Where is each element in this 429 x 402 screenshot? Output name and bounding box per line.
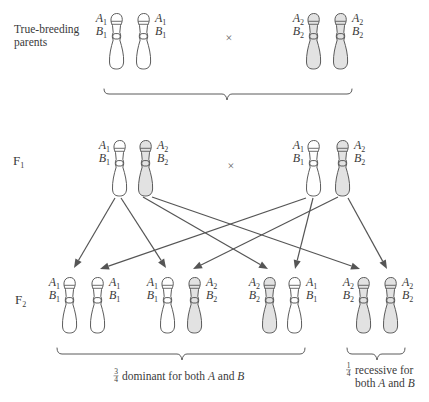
- f1-base: F: [13, 153, 20, 168]
- chromosome-f1-1: A2B2: [138, 138, 168, 196]
- allele-subscript: 2: [256, 295, 260, 304]
- allele-subscript: 2: [300, 18, 304, 27]
- chromosome-icon: [160, 277, 174, 333]
- arrow-head-icon: [74, 258, 82, 268]
- allele-subscript: 1: [154, 295, 158, 304]
- allele-subscript: 2: [359, 18, 363, 27]
- brace-dominant: [57, 348, 305, 360]
- chromosome-icon: [109, 13, 123, 69]
- arrow-head-icon: [294, 259, 301, 269]
- locus-b-ring: [94, 298, 101, 303]
- recessive-text-and: and: [385, 377, 407, 389]
- dominant-text: dominant for both A and B: [122, 370, 244, 382]
- arrow-head-icon: [380, 259, 387, 269]
- arrow-f1-0-to-f2-0: [74, 198, 115, 268]
- chromosome-icon: [138, 140, 152, 196]
- allele-subscript: 1: [103, 18, 107, 27]
- outcome-dominant-label: 3 4 dominant for both A and B: [114, 367, 245, 384]
- chromosome-icon: [306, 140, 320, 196]
- chromosome-icon: [262, 277, 276, 333]
- chromosome-body: [306, 140, 320, 196]
- allele-subscript: 1: [116, 295, 120, 304]
- brace-parents-to-f1: [104, 89, 352, 100]
- chromosome-parents-1: A1B1: [136, 11, 166, 69]
- arrow-shaft: [143, 197, 260, 265]
- row-label-f2: F2: [15, 292, 26, 309]
- locus-b-ring: [266, 298, 273, 303]
- locus-b-ring: [339, 161, 346, 166]
- locus-b-ring: [191, 298, 198, 303]
- arrow-head-icon: [258, 261, 268, 269]
- allele-subscript: 1: [116, 282, 120, 291]
- row-label-parents: True-breeding parents: [14, 23, 80, 49]
- arrow-shaft: [297, 198, 313, 260]
- row-label-parents-line1: True-breeding: [14, 23, 80, 36]
- chromosome-f1-0: A1B1: [98, 138, 127, 196]
- chromosome-body: [136, 13, 150, 69]
- allele-subscript: 2: [256, 282, 260, 291]
- dominant-text-and: and: [215, 370, 237, 382]
- row-label-f1: F1: [13, 153, 24, 170]
- arrow-f1-3-to-f2-7: [348, 198, 387, 269]
- chromosome-f1-2: A1B1: [292, 138, 321, 196]
- arrow-head-icon: [193, 262, 203, 269]
- brace-recessive: [347, 348, 405, 360]
- chromosome-f2-3: A2B2: [187, 275, 217, 333]
- allele-subscript: 2: [409, 295, 413, 304]
- chromosome-body: [287, 277, 301, 333]
- allele-subscript: 1: [300, 145, 304, 154]
- arrow-head-icon: [100, 263, 110, 270]
- locus-b-ring: [310, 161, 317, 166]
- chromosome-f2-0: A1B1: [48, 275, 77, 333]
- locus-b-ring: [113, 34, 120, 39]
- arrow-shaft: [348, 198, 383, 261]
- chromosome-parents-2: A2B2: [292, 11, 321, 69]
- chromosome-parents-3: A2B2: [333, 11, 363, 69]
- allele-subscript: 2: [350, 295, 354, 304]
- locus-b-ring: [142, 161, 149, 166]
- chromosome-body: [333, 13, 347, 69]
- chromosome-f2-6: A2B2: [342, 275, 371, 333]
- row-label-parents-line2: parents: [14, 36, 48, 49]
- chromosome-icon: [335, 140, 349, 196]
- allele-subscript: 1: [106, 158, 110, 167]
- locus-b-ring: [310, 34, 317, 39]
- chromosome-icon: [187, 277, 201, 333]
- recessive-text-line2: both A and B: [355, 377, 415, 389]
- locus-b-ring: [140, 34, 147, 39]
- allele-subscript: 1: [162, 31, 166, 40]
- arrow-f1-3-to-f2-3: [193, 197, 338, 269]
- locus-b-ring: [387, 298, 394, 303]
- outcome-recessive-label: 1 4 recessive for both A and B: [346, 361, 415, 389]
- cross-symbol-f1: ×: [228, 159, 235, 173]
- locus-b-ring: [360, 298, 367, 303]
- locus-b-ring: [337, 34, 344, 39]
- fraction-denominator: 4: [114, 375, 118, 384]
- arrow-head-icon: [350, 263, 360, 270]
- arrow-f1-1-to-f2-6: [152, 197, 360, 269]
- chromosome-f2-7: A2B2: [383, 275, 413, 333]
- allele-subscript: 1: [313, 282, 317, 291]
- allele-subscript: 1: [300, 158, 304, 167]
- allele-subscript: 1: [106, 145, 110, 154]
- allele-subscript: 2: [409, 282, 413, 291]
- chromosome-f2-1: A1B1: [90, 275, 120, 333]
- arrow-f1-2-to-f2-1: [100, 198, 306, 269]
- allele-subscript: 2: [359, 31, 363, 40]
- allele-subscript: 2: [213, 282, 217, 291]
- chromosome-f1-3: A2B2: [335, 138, 365, 196]
- allele-subscript: 1: [56, 295, 60, 304]
- allele-subscript: 2: [350, 282, 354, 291]
- allele-subscript: 1: [162, 18, 166, 27]
- chromosome-icon: [383, 277, 397, 333]
- arrow-f1-2-to-f2-5: [294, 198, 313, 269]
- chromosome-icon: [287, 277, 301, 333]
- chromosome-body: [356, 277, 370, 333]
- chromosome-body: [62, 277, 76, 333]
- allele-subscript: 2: [300, 31, 304, 40]
- chromosome-f2-4: A2B2: [248, 275, 277, 333]
- arrow-f1-0-to-f2-2: [121, 198, 166, 268]
- recessive-text-pre: both: [355, 377, 378, 389]
- fraction-denominator: 4: [347, 369, 351, 378]
- chromosome-icon: [62, 277, 76, 333]
